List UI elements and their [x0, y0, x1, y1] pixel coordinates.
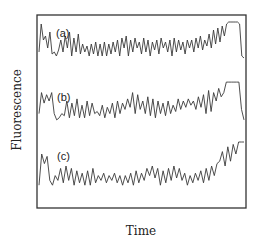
- trace-c: [39, 142, 244, 185]
- y-axis-label: Fluorescence: [10, 69, 24, 151]
- fluorescence-chart: (a) (b) (c) Fluorescence Time: [0, 0, 255, 243]
- trace-label-c: (c): [57, 150, 70, 162]
- trace-a: [39, 22, 244, 58]
- trace-label-a: (a): [56, 27, 69, 39]
- trace-label-b: (b): [57, 91, 70, 103]
- x-axis-label: Time: [126, 224, 156, 238]
